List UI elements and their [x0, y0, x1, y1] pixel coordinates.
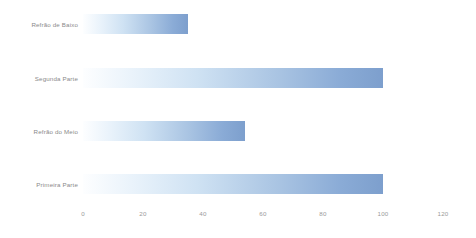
bar-row: Primeira Parte: [0, 174, 476, 194]
x-tick-label: 20: [139, 210, 146, 217]
x-tick-label: 0: [81, 210, 85, 217]
bar-segunda-parte[interactable]: [83, 68, 383, 88]
bar-row: Segunda Parte: [0, 68, 476, 88]
bar-refrao-de-baixo[interactable]: [83, 14, 188, 34]
x-tick-label: 120: [438, 210, 449, 217]
bar-refrao-do-meio[interactable]: [83, 121, 245, 141]
x-tick-label: 60: [259, 210, 266, 217]
x-axis: 0 20 40 60 80 100 120: [0, 210, 476, 226]
x-tick-label: 40: [199, 210, 206, 217]
horizontal-bar-chart: Refrão de Baixo Segunda Parte Refrão do …: [0, 0, 476, 238]
bar-primeira-parte[interactable]: [83, 174, 383, 194]
category-label: Primeira Parte: [36, 181, 78, 188]
plot-area: Refrão de Baixo Segunda Parte Refrão do …: [0, 0, 476, 238]
x-tick-label: 100: [378, 210, 389, 217]
category-label: Refrão de Baixo: [31, 21, 78, 28]
x-tick-label: 80: [319, 210, 326, 217]
category-label: Segunda Parte: [35, 75, 78, 82]
category-label: Refrão do Meio: [34, 128, 78, 135]
bar-row: Refrão do Meio: [0, 121, 476, 141]
bar-row: Refrão de Baixo: [0, 14, 476, 34]
